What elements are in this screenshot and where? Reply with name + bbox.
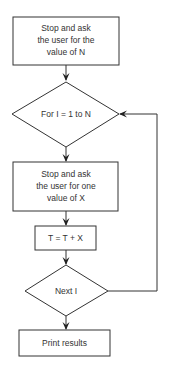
accumulate-label: T = T + X (48, 233, 83, 243)
print-label: Print results (42, 338, 87, 348)
next-i-label: Next I (55, 286, 77, 296)
ask-x-line-1: Stop and ask (41, 169, 91, 179)
decision-for-loop: For I = 1 to N (12, 82, 119, 147)
process-accumulate: T = T + X (35, 226, 96, 250)
process-ask-x: Stop and ask the user for one value of X (13, 162, 118, 211)
arrow-next-to-print (63, 316, 70, 330)
for-loop-label: For I = 1 to N (41, 109, 91, 119)
ask-n-line-1: Stop and ask (41, 23, 91, 33)
flowchart: Stop and ask the user for the value of N… (0, 0, 169, 374)
arrow-ask-x-to-accumulate (63, 211, 70, 226)
ask-x-line-2: the user for one (36, 181, 96, 191)
arrow-accumulate-to-next (63, 250, 70, 265)
ask-n-line-3: value of N (47, 47, 85, 57)
ask-x-line-3: value of X (47, 193, 85, 203)
arrow-for-to-ask-x (63, 147, 70, 162)
arrow-ask-n-to-for (63, 65, 70, 81)
decision-next-i: Next I (25, 265, 108, 316)
ask-n-line-2: the user for the (37, 35, 94, 45)
process-ask-n: Stop and ask the user for the value of N (13, 17, 119, 65)
process-print-results: Print results (19, 330, 110, 356)
